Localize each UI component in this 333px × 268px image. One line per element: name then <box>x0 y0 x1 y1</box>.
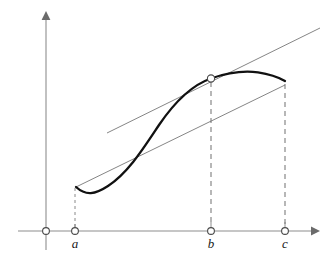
point-b <box>208 228 215 235</box>
axis-labels-group: a b c <box>72 236 288 251</box>
secant-line <box>76 85 285 187</box>
y-axis-arrow-icon <box>42 11 51 20</box>
point-c <box>282 228 289 235</box>
helper-lines-group <box>76 28 320 187</box>
diagram-canvas: a b c <box>0 0 333 268</box>
axes-group <box>18 11 320 250</box>
label-c: c <box>282 236 288 251</box>
point-a <box>72 228 79 235</box>
drop-lines-group <box>75 82 285 227</box>
tick-stub-group <box>75 222 285 231</box>
origin-point <box>43 228 50 235</box>
inflection-point <box>207 75 214 82</box>
figure-container: a b c <box>0 0 333 268</box>
markers-group <box>43 75 289 235</box>
label-b: b <box>208 236 215 251</box>
x-axis-arrow-icon <box>311 227 320 236</box>
label-a: a <box>72 236 79 251</box>
